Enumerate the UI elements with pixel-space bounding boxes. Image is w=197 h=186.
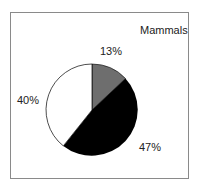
- label-47: 47%: [139, 141, 161, 153]
- label-40: 40%: [17, 94, 39, 106]
- pie-chart: [0, 0, 197, 186]
- label-13: 13%: [100, 45, 122, 57]
